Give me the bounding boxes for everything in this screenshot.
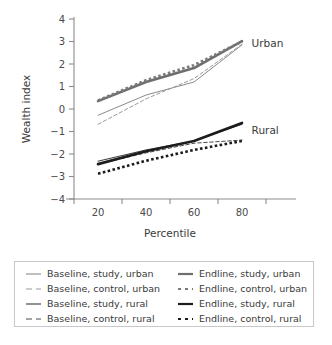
legend-line-swatch-icon [25,314,42,324]
legend-grid: Baseline, study, urbanEndline, study, ur… [15,262,313,326]
series-annotation-urban: Urban [252,37,284,49]
y-axis-tick-label: −1 [50,126,65,137]
legend-line-swatch-icon [25,284,42,294]
legend-item-label: Baseline, control, urban [47,283,160,294]
legend-item-label: Endline, control, rural [199,313,302,324]
series-line-3 [98,140,242,164]
legend-item-label: Baseline, study, urban [47,268,154,279]
x-axis-tick-label: 80 [236,207,249,218]
y-axis-tick-label: −2 [50,149,65,160]
axis-titles-layer: PercentileWealth index [20,75,196,239]
x-axis-tick-label: 60 [188,207,201,218]
legend-item: Endline, study, rural [167,296,315,311]
y-axis-tick-label: 1 [59,81,65,92]
legend-item-label: Endline, control, urban [199,283,307,294]
legend-item-label: Baseline, study, rural [47,298,148,309]
legend-item: Baseline, study, rural [15,296,167,311]
series-layer [98,41,242,174]
legend: Baseline, study, urbanEndline, study, ur… [14,261,314,327]
legend-item: Baseline, control, rural [15,311,167,326]
x-axis-title: Percentile [144,227,196,239]
x-axis-tick-label: 20 [92,207,105,218]
y-axis-tick-label: 0 [59,104,65,115]
legend-line-swatch-icon [177,299,194,309]
y-axis-tick-label: 3 [59,36,65,47]
plot-area: −4−3−2−10123420406080 UrbanRural Percent… [0,0,332,252]
legend-item: Endline, control, rural [167,311,315,326]
legend-line-swatch-icon [25,269,42,279]
wealth-index-chart-figure: −4−3−2−10123420406080 UrbanRural Percent… [0,0,332,345]
legend-line-swatch-icon [177,314,194,324]
y-axis-tick-label: −4 [50,194,65,205]
legend-item: Baseline, study, urban [15,266,167,281]
legend-item: Baseline, control, urban [15,281,167,296]
legend-item: Endline, control, urban [167,281,315,296]
series-line-1 [98,44,242,124]
legend-item-label: Endline, study, rural [199,298,295,309]
x-axis-tick-label: 40 [140,207,153,218]
legend-item: Endline, study, urban [167,266,315,281]
y-axis-tick-label: 4 [59,14,65,25]
legend-item-label: Baseline, control, rural [47,313,155,324]
series-line-6 [98,123,242,164]
y-axis-tick-label: −3 [50,171,65,182]
legend-item-label: Endline, study, urban [199,268,300,279]
chart-svg: −4−3−2−10123420406080 UrbanRural Percent… [0,0,332,252]
series-line-4 [98,41,242,101]
y-axis-tick-label: 2 [59,59,65,70]
series-line-0 [98,45,242,115]
series-annotation-rural: Rural [252,124,279,136]
y-axis-title: Wealth index [20,75,32,143]
legend-line-swatch-icon [177,284,194,294]
annotations-layer: UrbanRural [252,37,284,137]
legend-line-swatch-icon [177,269,194,279]
legend-line-swatch-icon [25,299,42,309]
